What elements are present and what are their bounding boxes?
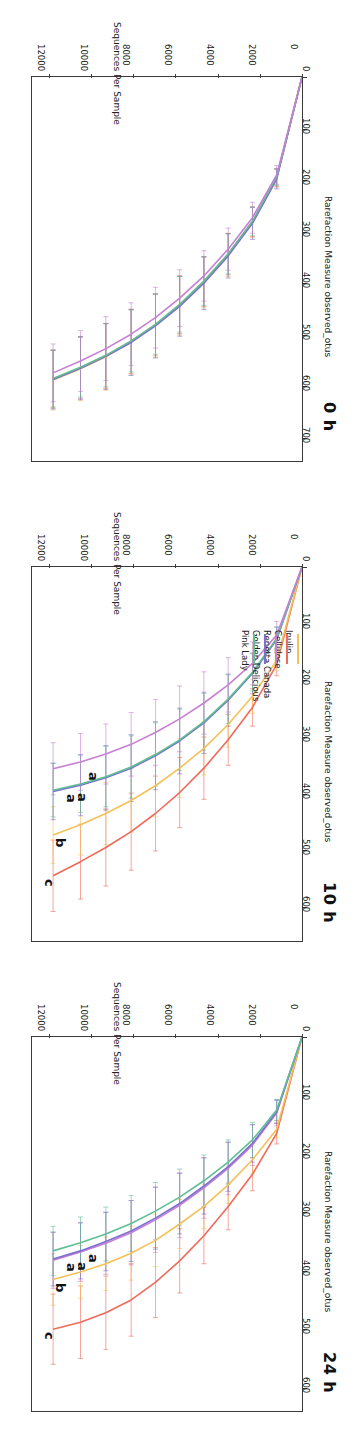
legend-swatch [264,634,266,664]
x-tick-mark [49,74,50,78]
x-tick-label: 12000 [36,534,46,561]
series-line [53,1037,302,1260]
y-tick-label: 0 [301,556,311,561]
y-tick-mark [303,1037,307,1038]
group-letter: a [86,1254,101,1263]
x-tick-label: 6000 [163,1004,173,1026]
x-tick-mark [133,564,134,568]
plot-area-0h [31,76,303,462]
x-tick-mark [175,74,176,78]
y-tick-label: 300 [301,221,311,237]
y-tick-label: 200 [301,169,311,185]
x-tick-label: 12000 [36,44,46,71]
x-tick-mark [49,564,50,568]
y-tick-label: 700 [301,427,311,443]
series-line [53,1037,302,1329]
y-tick-label: 300 [301,726,311,742]
group-letter: c [42,879,57,887]
y-tick-label: 200 [301,669,311,685]
y-tick-label: 0 [301,66,311,71]
plot-area-24h [31,1036,303,1412]
x-tick-label: 2000 [247,1004,257,1026]
series-line [53,77,302,373]
x-tick-label: 2000 [247,44,257,66]
x-tick-label: 4000 [205,1004,215,1026]
x-axis-title: Sequences Per Sample [112,22,122,125]
legend-swatch [297,634,299,664]
x-tick-label: 0 [290,1004,300,1009]
y-tick-label: 100 [301,1084,311,1100]
x-tick-label: 10000 [79,534,89,561]
x-tick-label: 8000 [121,44,131,66]
y-tick-label: 600 [301,1377,311,1393]
panel-title: 24 h [320,1352,339,1393]
x-tick-mark [91,74,92,78]
group-letter: c [42,1332,57,1340]
x-tick-label: 10000 [79,1004,89,1031]
x-tick-mark [91,1034,92,1038]
group-letter: b [53,838,68,847]
x-tick-label: 10000 [79,44,89,71]
y-tick-mark [303,77,307,78]
curves-0h [32,77,302,461]
legend-swatch [286,634,288,664]
y-tick-label: 600 [301,375,311,391]
x-tick-mark [133,1034,134,1038]
x-tick-mark [175,1034,176,1038]
group-letter: a [75,793,90,802]
y-tick-label: 600 [301,896,311,912]
group-letter: a [86,772,101,781]
y-tick-label: 500 [301,839,311,855]
x-tick-label: 8000 [121,534,131,556]
x-tick-mark [91,564,92,568]
series-line [53,1037,302,1280]
panel-title: 0 h [320,402,339,432]
x-tick-mark [175,564,176,568]
y-tick-label: 500 [301,1318,311,1334]
x-tick-label: 2000 [247,534,257,556]
x-tick-mark [218,74,219,78]
x-axis-title: Sequences Per Sample [112,512,122,615]
y-tick-label: 400 [301,272,311,288]
series-line [53,77,302,379]
x-tick-mark [218,564,219,568]
y-tick-label: 400 [301,783,311,799]
curves-10h [32,567,302,941]
x-tick-mark [218,1034,219,1038]
x-tick-mark [260,1034,261,1038]
series-line [53,77,302,380]
x-tick-mark [260,564,261,568]
y-tick-label: 200 [301,1143,311,1159]
x-tick-label: 12000 [36,1004,46,1031]
panel-10h: 0200040006000800010000120000100200300400… [0,484,361,964]
x-tick-mark [133,74,134,78]
x-tick-label: 0 [290,44,300,49]
legend-swatch [275,634,277,664]
y-axis-title: Rarefaction Measure observed_otus [323,196,333,357]
y-tick-label: 300 [301,1201,311,1217]
x-axis-title: Sequences Per Sample [112,982,122,1085]
x-tick-label: 0 [290,534,300,539]
y-tick-label: 0 [301,1026,311,1031]
panel-24h: 0200040006000800010000120000100200300400… [0,964,361,1434]
curves-24h [32,1037,302,1411]
y-axis-title: Rarefaction Measure observed_otus [323,1151,333,1312]
x-tick-mark [260,74,261,78]
plot-area-10h [31,566,303,942]
rarefaction-figure: 0200040006000800010000120000100200300400… [0,0,361,1434]
group-letter: b [53,1283,68,1292]
legend-label: Pink Lady [240,630,250,671]
y-tick-label: 400 [301,1260,311,1276]
group-letter: a [75,1262,90,1271]
panel-0h: 0200040006000800010000120000100200300400… [0,0,361,484]
x-tick-label: 6000 [163,44,173,66]
x-tick-label: 4000 [205,534,215,556]
y-tick-label: 500 [301,324,311,340]
y-axis-title: Rarefaction Measure observed_otus [323,681,333,842]
y-tick-label: 100 [301,118,311,134]
y-tick-label: 100 [301,613,311,629]
x-tick-label: 8000 [121,1004,131,1026]
series-line [53,77,302,380]
x-tick-mark [49,1034,50,1038]
x-tick-label: 4000 [205,44,215,66]
